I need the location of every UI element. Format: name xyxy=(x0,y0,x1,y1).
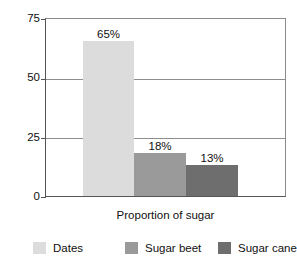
bar-value-sugar-beet: 18% xyxy=(134,140,186,152)
legend-label-sugar-cane: Sugar cane xyxy=(238,242,297,255)
y-tick-label-0: 0 xyxy=(0,191,40,202)
bar-value-sugar-cane: 13% xyxy=(186,152,238,164)
y-tick-mark-0 xyxy=(41,197,46,198)
bar-sugar-cane[interactable] xyxy=(186,165,238,196)
legend: Dates Sugar beet Sugar cane xyxy=(0,240,297,260)
legend-label-dates: Dates xyxy=(53,242,83,255)
legend-item-sugar-beet[interactable]: Sugar beet xyxy=(125,240,201,256)
x-axis-title: Proportion of sugar xyxy=(45,209,286,222)
y-tick-label-50: 50 xyxy=(0,72,40,83)
y-tick-mark-75 xyxy=(41,19,46,20)
bar-chart-figure: 75 50 25 0 65% 18% 13% Proportion of sug… xyxy=(0,0,297,268)
legend-swatch-sugar-cane-icon xyxy=(218,242,231,254)
legend-item-sugar-cane[interactable]: Sugar cane xyxy=(218,240,297,256)
legend-item-dates[interactable]: Dates xyxy=(33,240,83,256)
bar-dates[interactable] xyxy=(83,41,134,196)
gridline-50 xyxy=(46,79,285,80)
plot-area: 65% 18% 13% xyxy=(45,18,286,197)
y-tick-label-25: 25 xyxy=(0,132,40,143)
y-tick-label-75: 75 xyxy=(0,13,40,24)
legend-swatch-dates-icon xyxy=(33,242,46,254)
y-axis: 75 50 25 0 xyxy=(0,18,40,197)
bar-value-dates: 65% xyxy=(83,28,134,40)
legend-swatch-sugar-beet-icon xyxy=(125,242,138,254)
legend-label-sugar-beet: Sugar beet xyxy=(145,242,201,255)
bar-sugar-beet[interactable] xyxy=(134,153,186,196)
